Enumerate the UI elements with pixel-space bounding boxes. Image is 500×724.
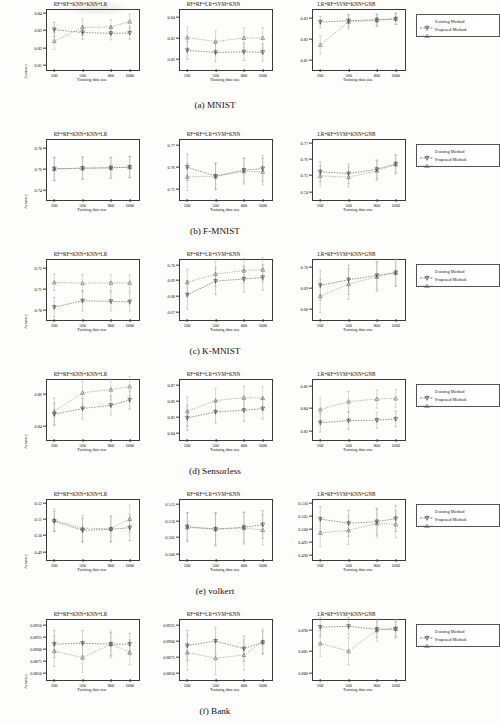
x-tick-mark	[129, 69, 130, 72]
panel-title: LR+RF+SVM+KNN+GNB	[280, 251, 413, 257]
x-axis-label: Training data size	[179, 687, 271, 692]
dataset-row: RF+RF+KNN+KNN+LRAccuracy0.840.8620050080…	[0, 370, 500, 490]
chart-panel: RF+RF+KNN+KNN+LRAccuracy0.740.760.782005…	[14, 130, 147, 226]
x-axis-label: Training data size	[46, 327, 138, 332]
x-tick-mark	[348, 319, 349, 322]
chart-panel: LR+RF+SVM+KNN+GNB0.8800.8850.89020050080…	[280, 610, 413, 706]
x-tick-mark	[215, 439, 216, 442]
y-tick-label: 0.71	[34, 287, 42, 292]
y-tick-label: 0.49	[34, 549, 42, 554]
x-tick-mark	[187, 559, 188, 562]
y-tick-label: 0.510	[165, 518, 175, 523]
x-tick-mark	[262, 199, 263, 202]
existing-method-marker-icon	[419, 388, 435, 396]
panel-title: RF+RF+LR+SVM+KNN	[147, 131, 280, 137]
legend: Existing Method Proposed Method	[416, 624, 500, 647]
dataset-row: RF+RF+KNN+KNN+LRAccuracy0.88500.88750.89…	[0, 610, 500, 724]
y-tick-label: 0.8900	[30, 647, 42, 652]
x-tick-mark	[129, 319, 130, 322]
chart-panel: RF+RF+KNN+KNN+LRAccuracy0.840.8620050080…	[14, 370, 147, 466]
x-tick-mark	[320, 199, 321, 202]
y-tick-label: 0.78	[34, 145, 42, 150]
legend-item-proposed: Proposed Method	[419, 276, 497, 284]
series-plot	[46, 379, 138, 439]
x-tick-mark	[82, 439, 83, 442]
x-tick-mark	[187, 199, 188, 202]
x-tick-mark	[377, 439, 378, 442]
existing-method-marker-icon	[419, 18, 435, 26]
panel-title: RF+RF+KNN+KNN+LR	[14, 1, 147, 7]
x-tick-mark	[262, 679, 263, 682]
series-plot	[46, 259, 138, 319]
x-tick-mark	[320, 69, 321, 72]
chart-panel: RF+RF+LR+SVM+KNN0.5000.5050.5100.5152005…	[147, 490, 280, 586]
x-tick-mark	[54, 319, 55, 322]
y-tick-label: 0.70	[34, 307, 42, 312]
y-tick-label: 0.500	[165, 552, 175, 557]
dataset-row: RF+RF+KNN+KNN+LRAccuracy0.700.710.722005…	[0, 250, 500, 370]
row-caption: (f) Bank	[0, 706, 430, 716]
row-caption: (e) volkert	[0, 586, 430, 596]
x-tick-mark	[244, 319, 245, 322]
x-tick-mark	[395, 439, 396, 442]
y-tick-label: 0.76	[300, 157, 308, 162]
x-axis-label: Training data size	[179, 207, 271, 212]
y-axis-ticks: 0.820.840.86	[280, 379, 310, 439]
legend-label-proposed: Proposed Method	[435, 27, 466, 32]
x-tick-mark	[129, 439, 130, 442]
y-tick-label: 0.8925	[30, 634, 42, 639]
legend-item-existing: Existing Method	[419, 18, 497, 26]
panel-group: RF+RF+KNN+KNN+LRAccuracy0.490.500.510.52…	[14, 490, 414, 586]
y-tick-label: 0.68	[167, 294, 175, 299]
legend: Existing Method Proposed Method	[416, 144, 500, 167]
x-tick-mark	[377, 69, 378, 72]
x-tick-mark	[320, 679, 321, 682]
y-axis-ticks: 0.5000.5050.5100.515	[147, 499, 177, 559]
x-tick-mark	[82, 199, 83, 202]
proposed-method-marker-icon	[419, 516, 435, 524]
y-tick-label: 0.8950	[30, 622, 42, 627]
y-tick-label: 0.86	[167, 398, 175, 403]
legend: Existing Method Proposed Method	[416, 384, 500, 407]
legend-label-existing: Existing Method	[435, 629, 464, 634]
x-tick-mark	[187, 69, 188, 72]
legend-item-proposed: Proposed Method	[419, 26, 497, 34]
y-tick-label: 0.74	[34, 188, 42, 193]
x-tick-mark	[54, 439, 55, 442]
chart-panel: RF+RF+LR+SVM+KNN0.820.830.84200500800100…	[147, 0, 280, 96]
x-tick-mark	[215, 559, 216, 562]
existing-method-marker-icon	[419, 508, 435, 516]
x-tick-mark	[262, 69, 263, 72]
y-tick-label: 0.510	[298, 500, 308, 505]
panel-title: RF+RF+KNN+KNN+LR	[14, 251, 147, 257]
x-tick-mark	[129, 559, 130, 562]
panel-title: RF+RF+LR+SVM+KNN	[147, 251, 280, 257]
x-tick-mark	[215, 199, 216, 202]
y-tick-label: 0.515	[165, 502, 175, 507]
panel-title: RF+RF+KNN+KNN+LR	[14, 611, 147, 617]
row-caption: (c) K-MNIST	[0, 346, 430, 356]
y-axis-ticks: 0.810.820.83	[280, 9, 310, 69]
x-tick-mark	[348, 679, 349, 682]
y-tick-label: 0.72	[34, 266, 42, 271]
x-axis-label: Training data size	[312, 207, 404, 212]
y-axis-ticks: 0.680.690.70	[280, 259, 310, 319]
series-plot	[46, 9, 138, 69]
y-tick-label: 0.86	[300, 384, 308, 389]
chart-panel: LR+RF+SVM+KNN+GNB0.810.820.8320050080010…	[280, 0, 413, 96]
y-tick-label: 0.68	[300, 307, 308, 312]
chart-panel: RF+RF+KNN+KNN+LRAccuracy0.700.710.722005…	[14, 250, 147, 346]
x-tick-mark	[54, 679, 55, 682]
y-tick-label: 0.885	[298, 649, 308, 654]
panel-title: RF+RF+KNN+KNN+LR	[14, 491, 147, 497]
x-tick-mark	[262, 319, 263, 322]
proposed-method-marker-icon	[419, 156, 435, 164]
series-plot	[312, 499, 404, 559]
y-axis-ticks: 0.8800.8850.890	[280, 619, 310, 679]
legend: Existing Method Proposed Method	[416, 264, 500, 287]
x-axis-label: Training data size	[179, 567, 271, 572]
existing-method-marker-icon	[419, 148, 435, 156]
legend-item-proposed: Proposed Method	[419, 636, 497, 644]
series-plot	[46, 499, 138, 559]
proposed-method-marker-icon	[419, 276, 435, 284]
